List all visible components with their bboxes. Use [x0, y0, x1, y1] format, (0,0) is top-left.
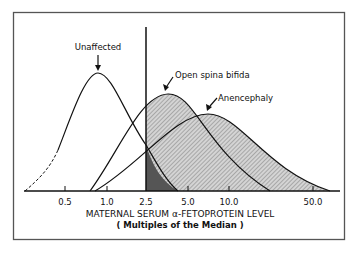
tick-label: 1.0 [100, 197, 114, 207]
afp-distribution-chart: 0.5 1.0 2.5 5.0 10.0 50.0 MATERNAL SERUM… [0, 0, 356, 253]
tick-label: 50.0 [304, 197, 323, 207]
label-unaffected: Unaffected [75, 42, 122, 52]
arrow-unaffected-icon [95, 55, 101, 71]
arrow-anencephaly-icon [206, 98, 217, 111]
x-axis-subtitle: ( Multiples of the Median ) [116, 220, 243, 230]
arrow-spina-bifida-icon [163, 77, 173, 91]
unaffected-curve-dashed [25, 150, 58, 191]
tick-label: 2.5 [139, 197, 153, 207]
tick-label: 5.0 [181, 197, 195, 207]
tick-label: 10.0 [220, 197, 239, 207]
x-axis-title: MATERNAL SERUM α-FETOPROTEIN LEVEL [86, 209, 275, 219]
label-open-spina-bifida: Open spina bifida [175, 70, 250, 80]
label-anencephaly: Anencephaly [218, 93, 273, 103]
tick-label: 0.5 [58, 197, 72, 207]
anencephaly-area [95, 114, 330, 191]
